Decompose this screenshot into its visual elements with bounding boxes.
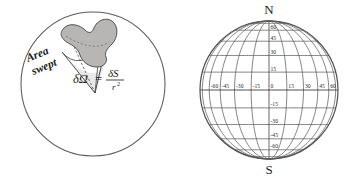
longitude-label--45: -45 [222,83,230,89]
north-pole-label: N [264,2,274,17]
longitude-label-60: 60 [330,83,336,89]
south-pole-label: S [265,162,272,177]
latitude-label--15: -15 [271,101,279,107]
latitude-label-45: 45 [271,35,277,41]
longitude-label-45: 45 [319,83,325,89]
solid-angle-panel: Area swept δΩ = δS r 2 [0,0,180,178]
area-swept-label: Area swept [23,43,59,79]
latitude-label-60: 60 [271,24,277,30]
area-swept-patch [61,19,117,67]
longitude-label--15: -15 [253,83,261,89]
latitude-label-15: 15 [271,66,277,72]
longitude-label-15: 15 [288,83,294,89]
latitude-label-30: 30 [271,49,277,55]
latitude-label--60: -60 [271,143,279,149]
formula-numerator: δS [108,67,119,79]
formula-denominator-exponent: 2 [117,81,120,87]
latitude-label--30: -30 [271,118,279,124]
longitude-label-30: 30 [305,83,311,89]
latitude-label--45: -45 [271,132,279,138]
figure-root: Area swept δΩ = δS r 2 -60-45-30-1501530… [0,0,357,178]
longitude-label--30: -30 [236,83,244,89]
formula-solid-angle-symbol: δΩ [73,72,88,86]
longitude-label-0: 0 [271,83,274,89]
globe-panel: -60-45-30-1501530456060453015-15-30-45-6… [180,0,357,178]
formula-denominator: r [112,82,116,92]
longitude-label--60: -60 [211,83,219,89]
formula-equals-sign: = [95,72,102,86]
